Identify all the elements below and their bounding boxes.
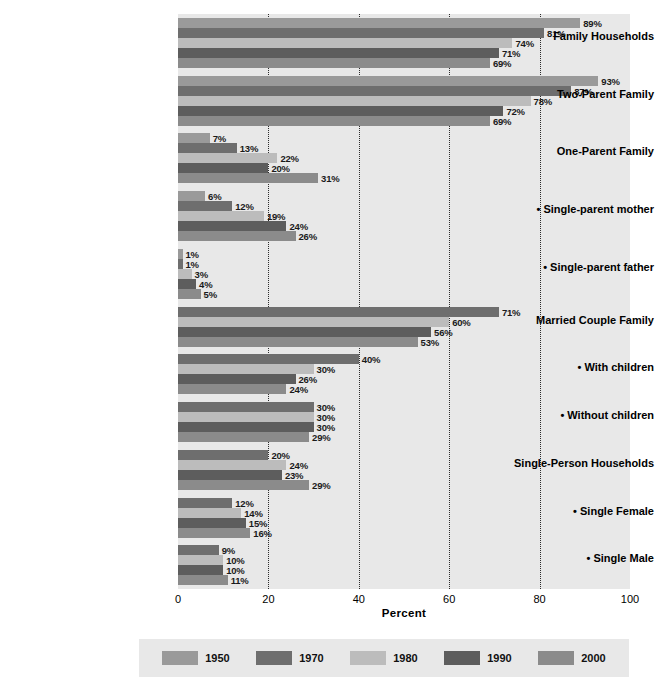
bar-2000[interactable] xyxy=(178,480,309,490)
bar-1970[interactable] xyxy=(178,259,183,269)
bar-1990[interactable] xyxy=(178,374,296,384)
bar-row: 23% xyxy=(178,470,630,480)
bar-group: 93%87%78%72%69% xyxy=(178,76,630,126)
bar-1990[interactable] xyxy=(178,221,286,231)
legend-swatch-1970 xyxy=(256,651,292,665)
chart-root: 89%81%74%71%69%93%87%78%72%69%7%13%22%20… xyxy=(0,0,660,694)
bar-1970[interactable] xyxy=(178,545,219,555)
bar-group: 20%24%23%29% xyxy=(178,450,630,490)
bar-group: 1%1%3%4%5% xyxy=(178,249,630,299)
bar-1990[interactable] xyxy=(178,279,196,289)
bar-row: 10% xyxy=(178,565,630,575)
bar-1970[interactable] xyxy=(178,498,232,508)
bar-1980[interactable] xyxy=(178,460,286,470)
bar-value-label: 13% xyxy=(240,143,258,154)
bar-1990[interactable] xyxy=(178,163,268,173)
bar-value-label: 16% xyxy=(253,527,271,538)
bar-1990[interactable] xyxy=(178,48,499,58)
bar-2000[interactable] xyxy=(178,231,296,241)
bar-1980[interactable] xyxy=(178,269,192,279)
bar-2000[interactable] xyxy=(178,116,490,126)
bar-row: 31% xyxy=(178,173,630,183)
bar-value-label: 29% xyxy=(312,432,330,443)
legend-item-1950[interactable]: 1950 xyxy=(162,651,229,665)
bar-group: 9%10%10%11% xyxy=(178,545,630,585)
bar-2000[interactable] xyxy=(178,173,318,183)
bar-2000[interactable] xyxy=(178,58,490,68)
category-label: • With children xyxy=(488,361,660,374)
bar-2000[interactable] xyxy=(178,384,286,394)
bar-row: 29% xyxy=(178,432,630,442)
bar-value-label: 89% xyxy=(583,18,601,29)
bar-1990[interactable] xyxy=(178,106,503,116)
bar-1980[interactable] xyxy=(178,96,531,106)
bar-value-label: 7% xyxy=(213,133,226,144)
legend-item-1970[interactable]: 1970 xyxy=(256,651,323,665)
bar-2000[interactable] xyxy=(178,337,418,347)
bar-row: 69% xyxy=(178,58,630,68)
bar-1950[interactable] xyxy=(178,18,580,28)
bar-2000[interactable] xyxy=(178,575,228,585)
bar-1980[interactable] xyxy=(178,555,223,565)
legend: 19501970198019902000 xyxy=(139,639,629,677)
bar-1980[interactable] xyxy=(178,38,512,48)
category-label: • Single-parent father xyxy=(488,261,660,274)
bar-1980[interactable] xyxy=(178,317,449,327)
bar-value-label: 30% xyxy=(317,364,335,375)
category-label: • Single-parent mother xyxy=(488,203,660,216)
bar-1970[interactable] xyxy=(178,307,499,317)
category-label: Single-Person Households xyxy=(488,457,660,470)
bar-row: 20% xyxy=(178,163,630,173)
bar-row: 5% xyxy=(178,289,630,299)
bar-row: 24% xyxy=(178,384,630,394)
bar-1990[interactable] xyxy=(178,422,314,432)
x-tick-40: 40 xyxy=(353,593,365,605)
bar-1990[interactable] xyxy=(178,518,246,528)
bar-1970[interactable] xyxy=(178,402,314,412)
bar-1990[interactable] xyxy=(178,470,282,480)
bar-1980[interactable] xyxy=(178,153,277,163)
bar-1950[interactable] xyxy=(178,249,183,259)
plot-area: 89%81%74%71%69%93%87%78%72%69%7%13%22%20… xyxy=(178,14,630,589)
bar-2000[interactable] xyxy=(178,289,201,299)
legend-label: 1950 xyxy=(205,652,229,664)
bar-1970[interactable] xyxy=(178,354,359,364)
legend-item-2000[interactable]: 2000 xyxy=(538,651,605,665)
bar-1990[interactable] xyxy=(178,327,431,337)
bar-value-label: 60% xyxy=(452,316,470,327)
bar-1980[interactable] xyxy=(178,364,314,374)
legend-item-1990[interactable]: 1990 xyxy=(444,651,511,665)
bar-value-label: 23% xyxy=(285,469,303,480)
bar-1950[interactable] xyxy=(178,76,598,86)
legend-item-1980[interactable]: 1980 xyxy=(350,651,417,665)
bar-row: 30% xyxy=(178,422,630,432)
bar-1990[interactable] xyxy=(178,565,223,575)
bar-row: 71% xyxy=(178,48,630,58)
bar-value-label: 19% xyxy=(267,211,285,222)
bar-1970[interactable] xyxy=(178,201,232,211)
bar-1950[interactable] xyxy=(178,133,210,143)
legend-label: 1970 xyxy=(299,652,323,664)
legend-label: 1980 xyxy=(393,652,417,664)
bar-value-label: 93% xyxy=(601,75,619,86)
x-tick-60: 60 xyxy=(443,593,455,605)
x-tick-100: 100 xyxy=(621,593,639,605)
bar-row: 72% xyxy=(178,106,630,116)
bar-group: 7%13%22%20%31% xyxy=(178,133,630,183)
bar-value-label: 24% xyxy=(289,384,307,395)
bar-1970[interactable] xyxy=(178,143,237,153)
bar-value-label: 6% xyxy=(208,191,221,202)
bar-2000[interactable] xyxy=(178,432,309,442)
bar-row: 4% xyxy=(178,279,630,289)
bar-row: 26% xyxy=(178,374,630,384)
legend-label: 1990 xyxy=(487,652,511,664)
x-axis-title: Percent xyxy=(178,607,630,619)
bar-group: 71%60%56%53% xyxy=(178,307,630,347)
bar-value-label: 69% xyxy=(493,58,511,69)
bar-1950[interactable] xyxy=(178,191,205,201)
bar-1980[interactable] xyxy=(178,508,241,518)
bar-2000[interactable] xyxy=(178,528,250,538)
bar-1980[interactable] xyxy=(178,412,314,422)
bar-1980[interactable] xyxy=(178,211,264,221)
bar-1970[interactable] xyxy=(178,450,268,460)
